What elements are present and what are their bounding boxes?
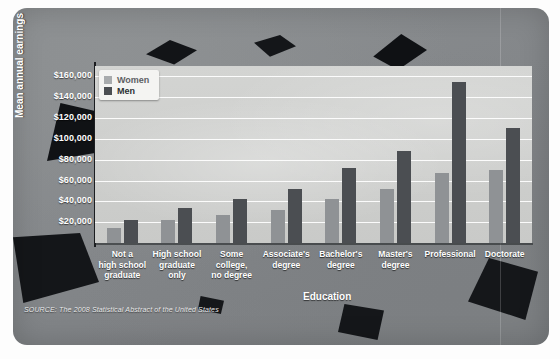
plot-shading bbox=[95, 66, 532, 243]
gridline bbox=[95, 97, 532, 98]
y-tick-label: $20,000 bbox=[6, 216, 92, 226]
bar-women-7 bbox=[489, 170, 503, 243]
graduation-cap-photo-6 bbox=[338, 304, 384, 340]
gridline bbox=[95, 139, 532, 140]
x-axis-title: Education bbox=[303, 291, 351, 302]
y-tick-label: $100,000 bbox=[6, 133, 92, 143]
bar-men-6 bbox=[452, 82, 466, 243]
bar-men-2 bbox=[233, 199, 247, 243]
legend-item-women: Women bbox=[104, 74, 149, 85]
x-axis-line bbox=[94, 243, 533, 245]
bar-men-1 bbox=[178, 208, 192, 243]
gridline bbox=[95, 118, 532, 119]
bar-women-3 bbox=[271, 210, 285, 243]
plot-area bbox=[95, 66, 532, 243]
bar-women-6 bbox=[435, 173, 449, 243]
bar-men-7 bbox=[506, 128, 520, 243]
bar-women-0 bbox=[107, 228, 121, 243]
bar-men-3 bbox=[288, 189, 302, 243]
legend-label-men: Men bbox=[117, 86, 135, 96]
gridline bbox=[95, 201, 532, 202]
chart-legend: Women Men bbox=[99, 70, 159, 100]
y-tick-label: $40,000 bbox=[6, 195, 92, 205]
source-note: SOURCE: The 2008 Statistical Abstract of… bbox=[24, 306, 219, 313]
graduation-cap-photo-2 bbox=[254, 35, 296, 63]
y-tick-label: $60,000 bbox=[6, 175, 92, 185]
bar-men-5 bbox=[397, 151, 411, 243]
bar-women-4 bbox=[325, 199, 339, 243]
gridline bbox=[95, 181, 532, 182]
y-axis-title: Mean annual earnings bbox=[14, 13, 25, 118]
gridline bbox=[95, 76, 532, 77]
bar-men-0 bbox=[124, 220, 138, 243]
x-axis-category-labels: Not ahigh schoolgraduateHigh schoolgradu… bbox=[95, 249, 532, 293]
bar-women-2 bbox=[216, 215, 230, 243]
gridline bbox=[95, 160, 532, 161]
legend-swatch-men-icon bbox=[104, 87, 112, 95]
legend-swatch-women-icon bbox=[104, 76, 112, 84]
y-tick-label: $80,000 bbox=[6, 154, 92, 164]
bar-women-1 bbox=[161, 220, 175, 243]
chart-screenshot: $160,000$140,000$120,000$100,000$80,000$… bbox=[0, 0, 560, 359]
legend-label-women: Women bbox=[117, 75, 149, 85]
bar-women-5 bbox=[380, 189, 394, 243]
x-tick-label: Doctorate bbox=[471, 249, 538, 260]
legend-item-men: Men bbox=[104, 85, 149, 96]
bar-men-4 bbox=[342, 168, 356, 243]
